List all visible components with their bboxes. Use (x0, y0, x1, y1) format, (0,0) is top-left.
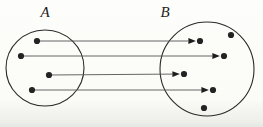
element-dot-b1 (197, 38, 203, 44)
set-a-label: A (39, 4, 50, 20)
element-dot-a3 (46, 72, 52, 78)
element-dot-b2 (221, 53, 227, 59)
mapping-arrowhead-1 (188, 38, 196, 44)
element-dot-b4 (210, 87, 216, 93)
element-dot-a1 (34, 38, 40, 44)
mapping-figure: A B (0, 0, 263, 127)
mapping-diagram-svg: A B (0, 0, 263, 127)
mapping-arrows-layer (21, 38, 220, 93)
mapping-arrowhead-3 (172, 71, 180, 77)
mapping-arrowhead-4 (201, 87, 209, 93)
element-dots-layer (18, 32, 234, 111)
element-dot-b6 (201, 105, 207, 111)
mapping-arrow-line-3 (49, 74, 172, 75)
element-dot-b3 (181, 71, 187, 77)
element-dot-a2 (18, 53, 24, 59)
set-b-label: B (160, 4, 169, 20)
element-dot-a4 (29, 87, 35, 93)
set-circles-layer (6, 22, 254, 116)
set-b-circle (160, 22, 254, 116)
element-dot-b5 (228, 32, 234, 38)
mapping-arrowhead-2 (212, 53, 220, 59)
